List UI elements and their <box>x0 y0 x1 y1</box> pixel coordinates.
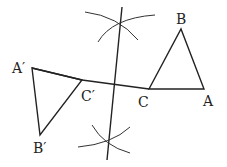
triangle-abc <box>149 29 204 89</box>
construction-arc-top-1 <box>85 12 138 40</box>
label-a-prime: A′ <box>11 60 25 76</box>
reflection-diagram: B A C A′ C′ B′ <box>0 0 227 167</box>
segment-a-prime-c <box>32 68 149 89</box>
label-b-prime: B′ <box>33 140 46 156</box>
construction-arc-bottom-1 <box>78 127 130 147</box>
label-c-prime: C′ <box>81 88 95 104</box>
label-b: B <box>176 11 186 27</box>
label-a: A <box>202 93 214 109</box>
label-c: C <box>138 94 149 110</box>
triangle-a-prime-b-prime-c-prime <box>32 68 82 135</box>
